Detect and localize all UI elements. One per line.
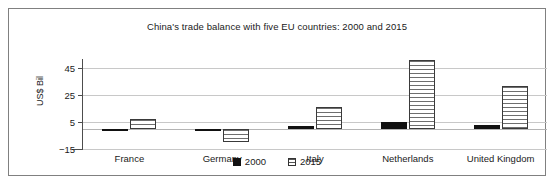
bar-2000-france[interactable] bbox=[102, 129, 128, 131]
bar-group bbox=[288, 59, 342, 149]
legend-label-2015: 2015 bbox=[300, 156, 321, 167]
bar-2000-italy[interactable] bbox=[288, 126, 314, 129]
legend-label-2000: 2000 bbox=[245, 156, 266, 167]
bar-2015-france[interactable] bbox=[130, 119, 156, 128]
chart-title: China's trade balance with five EU count… bbox=[9, 21, 545, 32]
filled-black-square-icon bbox=[233, 158, 241, 166]
bar-group bbox=[474, 59, 528, 149]
y-tick-mark bbox=[78, 95, 82, 96]
y-tick-label: 5 bbox=[35, 117, 75, 128]
bar-2000-germany[interactable] bbox=[195, 129, 221, 131]
y-tick-mark bbox=[78, 122, 82, 123]
chart-frame: China's trade balance with five EU count… bbox=[8, 8, 546, 176]
bar-2015-united-kingdom[interactable] bbox=[502, 86, 528, 129]
gridline bbox=[83, 149, 547, 150]
bar-2000-netherlands[interactable] bbox=[381, 122, 407, 129]
y-tick-mark bbox=[78, 68, 82, 69]
bar-2015-germany[interactable] bbox=[223, 129, 249, 142]
y-tick-label: −15 bbox=[35, 144, 75, 155]
chart-legend: 2000 2015 bbox=[9, 156, 545, 167]
y-axis-title: US$ Bil bbox=[35, 1, 49, 61]
horizontal-striped-square-icon bbox=[288, 158, 296, 166]
y-tick-label: 25 bbox=[35, 90, 75, 101]
bar-group bbox=[381, 59, 435, 149]
bar-group bbox=[195, 59, 249, 149]
bar-2015-italy[interactable] bbox=[316, 107, 342, 128]
plot-area: FranceGermanyItalyNetherlandsUnited King… bbox=[83, 59, 547, 149]
legend-item-2000[interactable]: 2000 bbox=[233, 156, 266, 167]
y-tick-label: 45 bbox=[35, 63, 75, 74]
bar-2000-united-kingdom[interactable] bbox=[474, 125, 500, 129]
y-tick-mark bbox=[78, 149, 82, 150]
bar-2015-netherlands[interactable] bbox=[409, 60, 435, 129]
bar-group bbox=[102, 59, 156, 149]
legend-item-2015[interactable]: 2015 bbox=[288, 156, 321, 167]
